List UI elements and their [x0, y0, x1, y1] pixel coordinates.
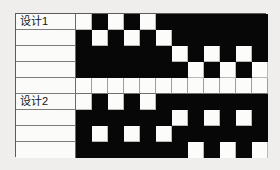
- pattern-cell-filled[interactable]: [76, 142, 92, 158]
- pattern-cell-filled[interactable]: [220, 94, 236, 110]
- pattern-cell-filled[interactable]: [108, 142, 124, 158]
- pattern-cell-filled[interactable]: [252, 14, 268, 30]
- pattern-cell-empty[interactable]: [76, 94, 92, 110]
- pattern-cell-filled[interactable]: [236, 94, 252, 110]
- pattern-cell-filled[interactable]: [140, 142, 156, 158]
- pattern-cell-filled[interactable]: [140, 62, 156, 78]
- pattern-cell-filled[interactable]: [204, 126, 220, 142]
- pattern-cell-filled[interactable]: [252, 30, 268, 46]
- pattern-cell-filled[interactable]: [108, 110, 124, 126]
- pattern-cell-empty[interactable]: [140, 78, 156, 94]
- pattern-cell-filled[interactable]: [76, 126, 92, 142]
- pattern-cell-filled[interactable]: [220, 126, 236, 142]
- pattern-cell-filled[interactable]: [124, 46, 140, 62]
- pattern-cell-filled[interactable]: [108, 30, 124, 46]
- pattern-cell-empty[interactable]: [236, 110, 252, 126]
- pattern-cell-filled[interactable]: [76, 110, 92, 126]
- pattern-cell-filled[interactable]: [204, 62, 220, 78]
- pattern-cell-filled[interactable]: [156, 14, 172, 30]
- pattern-cell-empty[interactable]: [156, 78, 172, 94]
- pattern-cell-filled[interactable]: [188, 14, 204, 30]
- pattern-cell-filled[interactable]: [188, 110, 204, 126]
- pattern-cell-filled[interactable]: [108, 126, 124, 142]
- pattern-cell-empty[interactable]: [252, 62, 268, 78]
- pattern-cell-filled[interactable]: [92, 14, 108, 30]
- pattern-cell-filled[interactable]: [108, 62, 124, 78]
- pattern-cell-filled[interactable]: [140, 110, 156, 126]
- pattern-cell-empty[interactable]: [108, 94, 124, 110]
- pattern-cell-empty[interactable]: [252, 78, 268, 94]
- pattern-cell-filled[interactable]: [124, 14, 140, 30]
- pattern-cell-filled[interactable]: [124, 94, 140, 110]
- pattern-cell-filled[interactable]: [204, 94, 220, 110]
- pattern-cell-empty[interactable]: [220, 62, 236, 78]
- pattern-cell-empty[interactable]: [156, 126, 172, 142]
- pattern-cell-filled[interactable]: [156, 110, 172, 126]
- pattern-cell-empty[interactable]: [188, 142, 204, 158]
- pattern-cell-filled[interactable]: [76, 62, 92, 78]
- pattern-cell-filled[interactable]: [188, 46, 204, 62]
- pattern-cell-empty[interactable]: [108, 14, 124, 30]
- pattern-cell-filled[interactable]: [156, 62, 172, 78]
- pattern-cell-filled[interactable]: [172, 14, 188, 30]
- pattern-cell-filled[interactable]: [188, 30, 204, 46]
- pattern-cell-filled[interactable]: [220, 14, 236, 30]
- pattern-cell-filled[interactable]: [140, 30, 156, 46]
- pattern-cell-filled[interactable]: [156, 46, 172, 62]
- pattern-cell-empty[interactable]: [124, 78, 140, 94]
- pattern-cell-filled[interactable]: [124, 110, 140, 126]
- pattern-cell-empty[interactable]: [108, 78, 124, 94]
- pattern-cell-filled[interactable]: [236, 30, 252, 46]
- pattern-cell-filled[interactable]: [236, 126, 252, 142]
- pattern-cell-empty[interactable]: [92, 78, 108, 94]
- pattern-cell-empty[interactable]: [140, 94, 156, 110]
- pattern-cell-filled[interactable]: [236, 14, 252, 30]
- pattern-cell-empty[interactable]: [236, 78, 252, 94]
- pattern-cell-empty[interactable]: [188, 62, 204, 78]
- pattern-cell-filled[interactable]: [204, 30, 220, 46]
- pattern-cell-filled[interactable]: [252, 46, 268, 62]
- pattern-cell-filled[interactable]: [220, 30, 236, 46]
- pattern-cell-filled[interactable]: [172, 94, 188, 110]
- pattern-cell-empty[interactable]: [220, 142, 236, 158]
- pattern-cell-filled[interactable]: [76, 46, 92, 62]
- pattern-cell-filled[interactable]: [140, 46, 156, 62]
- pattern-cell-empty[interactable]: [172, 46, 188, 62]
- pattern-cell-filled[interactable]: [252, 126, 268, 142]
- pattern-cell-filled[interactable]: [188, 94, 204, 110]
- pattern-cell-filled[interactable]: [188, 126, 204, 142]
- pattern-cell-empty[interactable]: [220, 78, 236, 94]
- pattern-cell-filled[interactable]: [156, 94, 172, 110]
- pattern-cell-filled[interactable]: [220, 46, 236, 62]
- pattern-cell-filled[interactable]: [220, 110, 236, 126]
- pattern-cell-filled[interactable]: [92, 62, 108, 78]
- pattern-cell-filled[interactable]: [124, 142, 140, 158]
- pattern-cell-filled[interactable]: [92, 110, 108, 126]
- pattern-cell-empty[interactable]: [172, 78, 188, 94]
- pattern-cell-filled[interactable]: [108, 46, 124, 62]
- pattern-cell-filled[interactable]: [236, 62, 252, 78]
- pattern-cell-empty[interactable]: [76, 14, 92, 30]
- pattern-cell-empty[interactable]: [172, 110, 188, 126]
- pattern-cell-filled[interactable]: [92, 94, 108, 110]
- pattern-cell-empty[interactable]: [188, 78, 204, 94]
- pattern-cell-filled[interactable]: [172, 62, 188, 78]
- pattern-cell-empty[interactable]: [76, 78, 92, 94]
- pattern-cell-filled[interactable]: [252, 110, 268, 126]
- pattern-cell-filled[interactable]: [92, 46, 108, 62]
- pattern-cell-filled[interactable]: [204, 14, 220, 30]
- pattern-cell-filled[interactable]: [172, 142, 188, 158]
- pattern-cell-filled[interactable]: [76, 30, 92, 46]
- pattern-cell-filled[interactable]: [204, 142, 220, 158]
- pattern-cell-empty[interactable]: [92, 30, 108, 46]
- pattern-cell-empty[interactable]: [204, 110, 220, 126]
- pattern-cell-filled[interactable]: [124, 62, 140, 78]
- pattern-cell-filled[interactable]: [156, 142, 172, 158]
- pattern-cell-empty[interactable]: [92, 126, 108, 142]
- pattern-cell-empty[interactable]: [236, 46, 252, 62]
- pattern-cell-empty[interactable]: [252, 142, 268, 158]
- pattern-cell-filled[interactable]: [172, 30, 188, 46]
- pattern-cell-filled[interactable]: [236, 142, 252, 158]
- pattern-cell-filled[interactable]: [140, 126, 156, 142]
- pattern-cell-empty[interactable]: [140, 14, 156, 30]
